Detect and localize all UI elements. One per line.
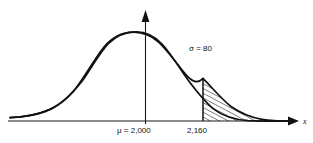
x-axis-arrow-icon bbox=[288, 117, 299, 126]
sigma-label: σ = 80 bbox=[189, 44, 213, 53]
shaded-tail-region bbox=[200, 74, 282, 123]
y-axis-arrow-icon bbox=[142, 10, 150, 22]
normal-distribution-figure: σ = 80 μ = 2,000 2,160 x bbox=[0, 0, 313, 143]
mean-label: μ = 2,000 bbox=[117, 126, 151, 135]
x-axis-label: x bbox=[302, 117, 307, 126]
distribution-chart-svg: σ = 80 μ = 2,000 2,160 x bbox=[0, 0, 313, 143]
normal-curve-path-main bbox=[10, 32, 288, 121]
boundary-label: 2,160 bbox=[187, 126, 208, 135]
